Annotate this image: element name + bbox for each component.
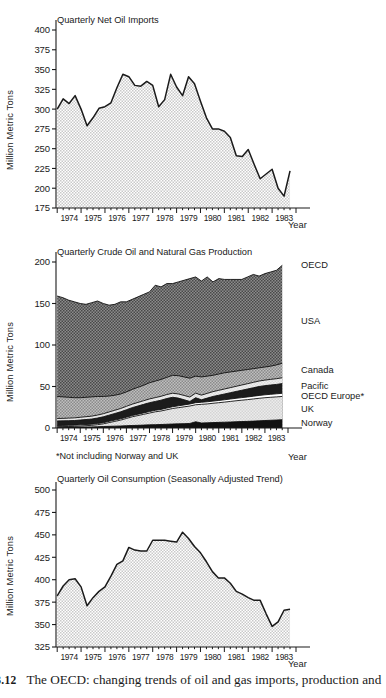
y-axis-title-2: Million Metric Tons <box>5 322 15 402</box>
x-tick-label: 1980 <box>198 433 216 443</box>
y-tick-label: 325 <box>34 641 50 652</box>
x-tick-label: 1981 <box>222 433 240 443</box>
chart-title-2: Quarterly Crude Oil and Natural Gas Prod… <box>57 247 252 257</box>
x-tick-label: 1974 <box>60 213 78 223</box>
y-tick-label: 400 <box>34 574 50 585</box>
series-label-usa: USA <box>301 316 321 326</box>
x-tick-label: 1979 <box>175 433 193 443</box>
y-axis-title-1: Million Metric Tons <box>5 90 15 170</box>
x-tick-label: 1978 <box>156 213 174 223</box>
caption-text: The OECD: changing trends of oil and gas… <box>26 672 381 687</box>
x-tick-label: 1977 <box>132 652 150 662</box>
x-tick-label: 1976 <box>108 652 126 662</box>
x-tick-label: 1979 <box>180 652 198 662</box>
production-footnote: *Not including Norway and UK <box>56 451 178 461</box>
series-label-norway: Norway <box>301 418 333 428</box>
x-tick-label: 1980 <box>204 652 222 662</box>
series-label-canada: Canada <box>301 365 334 375</box>
x-tick-label: 1977 <box>129 433 147 443</box>
y-tick-label: 375 <box>34 44 50 55</box>
y-axis-title-3: Million Metric Tons <box>5 536 15 616</box>
x-tick-label: 1975 <box>84 652 102 662</box>
x-tick-label: 1975 <box>84 213 102 223</box>
y-tick-label: 200 <box>34 256 50 267</box>
series-label-uk: UK <box>301 404 315 414</box>
y-tick-label: 100 <box>34 339 50 350</box>
chart-panel-net-oil-imports: 1752002252502753003253503754001974197519… <box>0 0 386 232</box>
x-axis-title-2: Year <box>288 452 307 462</box>
area-fill-consumption <box>57 532 290 647</box>
y-tick-label: 500 <box>34 484 50 495</box>
y-tick-label: 450 <box>34 529 50 540</box>
y-tick-label: 50 <box>40 381 50 392</box>
x-tick-label: 1983 <box>268 433 286 443</box>
x-tick-label: 1974 <box>60 433 78 443</box>
y-tick-label: 200 <box>34 183 50 194</box>
x-axis-title-3: Year <box>288 659 307 669</box>
chart-panel-crude-oil-gas-production: 0501001502001974197519761977197819791980… <box>0 232 386 464</box>
x-tick-label: 1978 <box>156 652 174 662</box>
y-tick-label: 375 <box>34 597 50 608</box>
x-tick-label: 1975 <box>83 433 101 443</box>
area-fill-net-imports <box>57 74 290 208</box>
production-svg: 0501001502001974197519761977197819791980… <box>0 232 386 464</box>
x-tick-label: 1980 <box>204 213 222 223</box>
chart-panel-oil-consumption: 3253503754004254504755001974197519761977… <box>0 464 386 670</box>
y-tick-label: 175 <box>34 202 50 213</box>
y-tick-label: 325 <box>34 84 50 95</box>
y-tick-label: 225 <box>34 163 50 174</box>
y-tick-label: 400 <box>34 24 50 35</box>
chart-title-3: Quarterly Oil Consumption (Seasonally Ad… <box>57 474 283 484</box>
x-tick-label: 1976 <box>108 213 126 223</box>
y-tick-label: 250 <box>34 143 50 154</box>
x-tick-label: 1982 <box>251 213 269 223</box>
caption-number: 3.12 <box>0 674 16 686</box>
consumption-svg: 3253503754004254504755001974197519761977… <box>0 464 386 670</box>
y-tick-label: 0 <box>45 422 50 433</box>
y-tick-label: 425 <box>34 552 50 563</box>
y-tick-label: 350 <box>34 619 50 630</box>
series-label-pacific: Pacific <box>301 381 329 391</box>
y-tick-label: 275 <box>34 123 50 134</box>
y-tick-label: 475 <box>34 507 50 518</box>
x-tick-label: 1977 <box>132 213 150 223</box>
series-label-oecd-europe-: OECD Europe* <box>301 391 364 401</box>
y-tick-label: 350 <box>34 64 50 75</box>
net-oil-imports-svg: 1752002252502753003253503754001974197519… <box>0 0 386 232</box>
series-label-oecd: OECD <box>301 260 328 270</box>
figure-caption: e 3.12 The OECD: changing trends of oil … <box>0 670 386 698</box>
x-tick-label: 1978 <box>152 433 170 443</box>
y-tick-label: 300 <box>34 104 50 115</box>
x-tick-label: 1974 <box>60 652 78 662</box>
x-tick-label: 1979 <box>180 213 198 223</box>
x-tick-label: 1982 <box>245 433 263 443</box>
x-axis-title-1: Year <box>288 220 307 230</box>
chart-title-1: Quarterly Net Oil Imports <box>57 15 159 25</box>
y-tick-label: 150 <box>34 298 50 309</box>
figure-container: 1752002252502753003253503754001974197519… <box>0 0 386 698</box>
x-tick-label: 1981 <box>228 652 246 662</box>
x-tick-label: 1981 <box>228 213 246 223</box>
x-tick-label: 1976 <box>106 433 124 443</box>
x-tick-label: 1982 <box>251 652 269 662</box>
